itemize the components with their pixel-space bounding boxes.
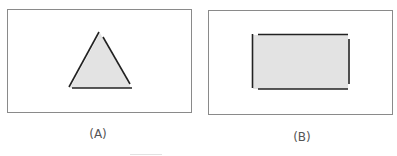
- bottom-divider: [130, 154, 162, 155]
- rectangle-shape: [253, 34, 350, 89]
- caption-a: (A): [78, 127, 118, 141]
- triangle-shape: [69, 32, 132, 88]
- caption-b: (B): [282, 130, 322, 144]
- figure-canvas: [0, 0, 397, 156]
